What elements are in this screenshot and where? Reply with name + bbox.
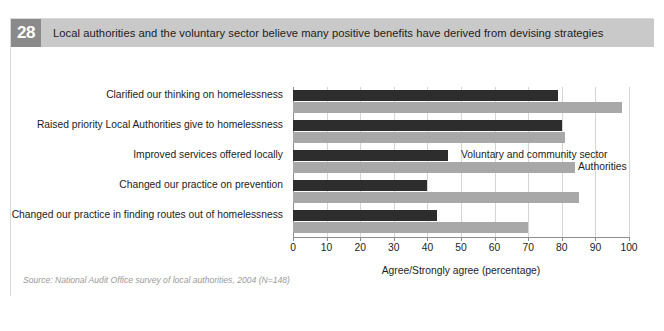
category-label-0: Clarified our thinking on homelessness: [11, 89, 283, 101]
category-label-3: Changed our practice on prevention: [11, 179, 283, 191]
x-tick-label-90: 90: [590, 242, 601, 253]
bar-group-1: [293, 117, 629, 147]
bar-voluntary-4: [293, 210, 437, 221]
x-tick-mark-50: [461, 237, 462, 241]
bar-group-0: [293, 87, 629, 117]
legend-label-voluntary: Voluntary and community sector: [461, 149, 608, 160]
bar-authorities-0: [293, 102, 622, 113]
x-tick-label-20: 20: [354, 242, 365, 253]
category-label-1: Raised priority Local Authorities give t…: [11, 119, 283, 131]
x-tick-mark-0: [293, 237, 294, 241]
bar-group-3: [293, 177, 629, 207]
bar-voluntary-2: [293, 150, 448, 161]
bar-group-4: [293, 207, 629, 237]
x-tick-mark-90: [595, 237, 596, 241]
x-tick-label-10: 10: [321, 242, 332, 253]
x-tick-label-0: 0: [290, 242, 296, 253]
figure-header-band: 28 Local authorities and the voluntary s…: [11, 19, 654, 47]
x-tick-label-100: 100: [620, 242, 637, 253]
figure-container: 28 Local authorities and the voluntary s…: [10, 18, 653, 296]
bar-authorities-3: [293, 192, 579, 203]
bar-authorities-4: [293, 222, 528, 233]
bar-group-2: Voluntary and community sector Authoriti…: [293, 147, 629, 177]
x-tick-mark-40: [427, 237, 428, 241]
figure-title: Local authorities and the voluntary sect…: [41, 19, 654, 47]
legend-label-authorities: Authorities: [578, 161, 627, 172]
x-tick-label-50: 50: [455, 242, 466, 253]
x-tick-label-40: 40: [422, 242, 433, 253]
gridline-100: [629, 87, 630, 237]
category-label-2: Improved services offered locally: [11, 149, 283, 161]
x-tick-mark-100: [629, 237, 630, 241]
figure-number-badge: 28: [11, 19, 41, 47]
x-tick-mark-10: [327, 237, 328, 241]
bar-voluntary-1: [293, 120, 562, 131]
x-tick-mark-30: [394, 237, 395, 241]
bar-authorities-2: [293, 162, 575, 173]
x-tick-mark-70: [528, 237, 529, 241]
x-tick-label-30: 30: [388, 242, 399, 253]
bar-voluntary-3: [293, 180, 427, 191]
x-tick-mark-80: [562, 237, 563, 241]
x-tick-label-60: 60: [489, 242, 500, 253]
x-axis-title: Agree/Strongly agree (percentage): [293, 265, 629, 276]
chart-body: Clarified our thinking on homelessness R…: [11, 47, 654, 297]
plot-area: Voluntary and community sector Authoriti…: [293, 87, 629, 237]
x-tick-label-80: 80: [556, 242, 567, 253]
category-axis-labels: Clarified our thinking on homelessness R…: [11, 87, 288, 237]
x-tick-mark-20: [360, 237, 361, 241]
x-axis-ticks: 0102030405060708090100: [293, 237, 629, 243]
category-label-4: Changed our practice in finding routes o…: [11, 209, 283, 221]
x-tick-mark-60: [495, 237, 496, 241]
x-tick-label-70: 70: [522, 242, 533, 253]
source-note: Source: National Audit Office survey of …: [23, 275, 290, 285]
bar-voluntary-0: [293, 90, 558, 101]
bar-authorities-1: [293, 132, 565, 143]
